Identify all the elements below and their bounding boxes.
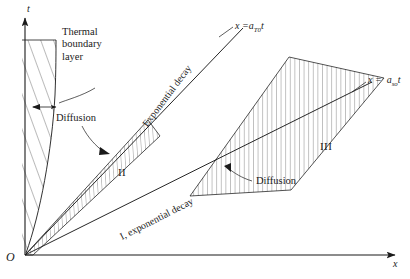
- origin-label: O: [6, 250, 15, 264]
- t-axis-label: t: [27, 3, 30, 15]
- region-iii-label: III: [320, 140, 332, 153]
- equation-upper-var: t: [261, 20, 264, 31]
- thermal-boundary-layer-label: Thermal boundary layer: [62, 26, 102, 63]
- diffusion-left-label: Diffusion: [56, 112, 96, 124]
- equation-upper-lhs: x =: [235, 20, 249, 31]
- aT0-label-leader: [219, 27, 233, 37]
- equation-upper-subscript: T0: [254, 26, 261, 33]
- diffusion-left-arrow: [99, 147, 110, 155]
- equation-lower-lhs: x =: [368, 74, 382, 85]
- equation-x-equals-aT0-t: x =aT0t: [235, 20, 264, 34]
- equation-lower-var: t: [398, 74, 401, 85]
- line-x-equals-aT0-t: [25, 28, 243, 255]
- diffusion-right-label: Diffusion: [256, 175, 296, 187]
- thermal-boundary-layer-region: [22, 40, 56, 253]
- thermal-boundary-layer-line-1: Thermal: [62, 26, 102, 38]
- x-axis-label: x: [393, 258, 397, 270]
- region-ii-label: II: [118, 166, 126, 179]
- equation-x-equals-aso-t: x =asot: [368, 74, 401, 88]
- thermal-boundary-layer-line-3: layer: [62, 51, 102, 63]
- diagram-canvas: t x O Thermal boundary layer Diffusion D…: [0, 0, 410, 279]
- line-x-equals-aso-t: [25, 82, 372, 255]
- thermal-boundary-layer-line-2: boundary: [62, 38, 102, 50]
- thermal-boundary-layer-leader: [59, 88, 95, 103]
